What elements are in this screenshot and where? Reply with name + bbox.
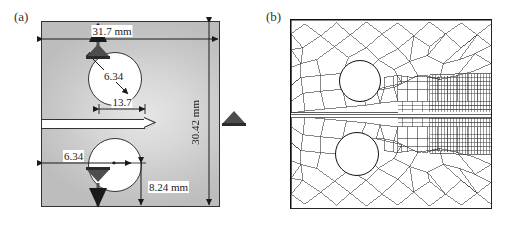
mesh-lower-hole (335, 132, 379, 176)
panel-b-finite-element-mesh: (b) (254, 0, 507, 226)
mesh-boundary (290, 19, 492, 209)
dim-height-label: 30.42 mm (189, 100, 201, 145)
dim-hole-offset-label: 6.34 (63, 150, 84, 162)
dim-hole-spacing-label: 8.24 mm (148, 181, 189, 193)
panel-a-specimen-schematic: (a) (0, 0, 254, 226)
dim-width-label: 31.7 mm (91, 25, 132, 37)
right-edge-support-triangle (223, 111, 245, 123)
upper-grip-base (86, 56, 110, 59)
mesh-crack-seam (291, 114, 491, 118)
upper-grip-triangle (87, 44, 109, 56)
dim-notch-length-label: 13.7 (111, 96, 132, 108)
lower-grip-triangle (87, 170, 109, 182)
right-edge-support-base (222, 123, 246, 126)
panel-b-label: (b) (266, 9, 281, 25)
mesh-upper-hole (339, 60, 381, 102)
dim-hole-diameter-label: 6.34 (103, 70, 124, 82)
lower-grip-base (86, 167, 110, 170)
